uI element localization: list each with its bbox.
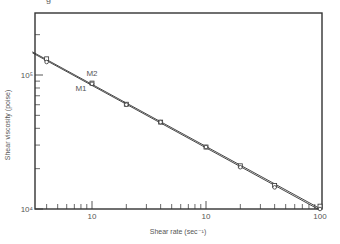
x-tick-label: 10 — [202, 212, 211, 221]
x-axis-label: Shear rate (sec⁻¹) — [150, 228, 207, 236]
data-point-circle — [318, 207, 322, 211]
x-tick-label: 10 — [88, 212, 97, 221]
plot-frame — [35, 13, 322, 209]
data-point-circle — [159, 120, 163, 124]
x-tick-label: 100 — [313, 212, 327, 221]
y-tick-label: 10⁴ — [21, 205, 34, 214]
y-tick-label: 10⁵ — [21, 71, 33, 80]
data-point-circle — [125, 103, 129, 107]
data-point-circle — [273, 186, 277, 190]
series-label-m2: M2 — [86, 69, 98, 78]
viscosity-chart: 101010010⁴10⁵ M2M1 Shear rate (sec⁻¹) Sh… — [0, 0, 340, 244]
y-axis-label: Shear viscosity (poise) — [4, 90, 12, 160]
data-point-circle — [45, 60, 49, 64]
data-point-circle — [239, 165, 243, 169]
series-label-m1: M1 — [75, 84, 87, 93]
data-point-circle — [90, 82, 94, 86]
data-point-circle — [204, 145, 208, 149]
tick-labels: 101010010⁴10⁵ — [21, 71, 328, 221]
